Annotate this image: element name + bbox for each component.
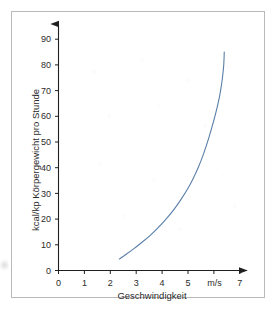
y-tick-label: 40 [41, 163, 51, 173]
y-tick-label: 30 [41, 189, 51, 199]
y-tick-label: 70 [41, 86, 51, 96]
x-axis-title: Geschwindigkeit [117, 290, 187, 301]
y-tick-label: 50 [41, 137, 51, 147]
x-axis-unit-label: m/s [207, 278, 222, 288]
y-tick-label: 60 [41, 111, 51, 121]
chart-canvas: 0 10 20 30 40 50 60 70 80 90 0 1 2 3 4 5… [0, 0, 277, 311]
x-tick-label: 0 [56, 278, 61, 288]
x-tick-label: 7 [237, 278, 242, 288]
data-series-line [119, 52, 224, 259]
y-axis-title: kcal/kp Körpergewicht pro Stunde [30, 89, 41, 231]
x-tick-label: 1 [82, 278, 87, 288]
x-tick-label: 4 [160, 278, 165, 288]
x-tick-label: 5 [185, 278, 190, 288]
y-axis-tick-labels: 0 10 20 30 40 50 60 70 80 90 [41, 34, 51, 275]
x-axis-tick-labels: 0 1 2 3 4 5 m/s 7 [56, 278, 242, 288]
y-tick-label: 10 [41, 240, 51, 250]
y-tick-label: 0 [46, 266, 51, 276]
x-tick-label: 3 [134, 278, 139, 288]
y-tick-label: 90 [41, 34, 51, 44]
x-tick-label: 2 [108, 278, 113, 288]
y-tick-label: 20 [41, 214, 51, 224]
y-tick-label: 80 [41, 60, 51, 70]
